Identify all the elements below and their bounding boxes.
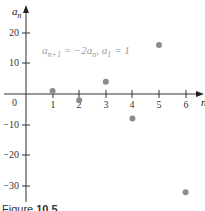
data-point [156, 42, 162, 48]
y-axis-arrow-icon [23, 5, 29, 13]
y-tick-label: 20 [9, 27, 19, 38]
recurrence-formula: an+1 = −2an, a1 = 1 [42, 44, 130, 59]
caption-number: 10.5 [36, 203, 57, 211]
x-tick-label: 5 [157, 99, 162, 110]
y-tick-label: −10 [3, 119, 19, 130]
data-point [129, 116, 135, 122]
x-tick-label: 6 [184, 99, 189, 110]
sequence-scatter-chart: an n 20 10 −10 −20 −30 0 1 2 3 4 5 6 an+… [0, 0, 205, 211]
x-tick-label: 3 [104, 99, 109, 110]
y-tick-label: −20 [3, 149, 19, 160]
caption-prefix: Figure [2, 203, 36, 211]
y-tick-label: −30 [3, 180, 19, 191]
data-point [183, 189, 189, 195]
figure-caption: Figure 10.5 [2, 203, 58, 211]
x-axis-label: n [201, 96, 205, 108]
y-axis-label: an [12, 5, 22, 20]
origin-label: 0 [12, 97, 17, 108]
data-points [50, 42, 189, 195]
x-ticks: 1 2 3 4 5 6 [51, 90, 189, 110]
x-tick-label: 1 [51, 99, 56, 110]
data-point [103, 79, 109, 85]
y-tick-label: 10 [9, 57, 19, 68]
data-point [50, 88, 56, 94]
x-tick-label: 4 [130, 99, 135, 110]
data-point [76, 97, 82, 103]
